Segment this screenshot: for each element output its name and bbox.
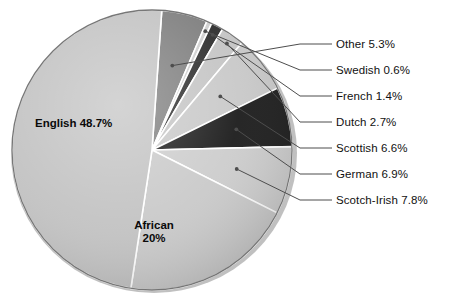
callout-label-scotch-irish: Scotch-Irish 7.8% xyxy=(336,194,428,206)
leader-dot-scotch-irish xyxy=(235,167,239,171)
leader-dot-other xyxy=(170,64,174,68)
slice-label-african-name: African xyxy=(117,219,191,232)
leader-dot-swedish xyxy=(203,29,207,33)
callout-label-scottish: Scottish 6.6% xyxy=(336,142,408,154)
callout-label-swedish: Swedish 0.6% xyxy=(336,64,410,76)
leader-dot-dutch xyxy=(225,42,229,46)
pie-chart-figure: Other 5.3% Swedish 0.6% French 1.4% Dutc… xyxy=(0,0,456,303)
leader-dot-scottish xyxy=(218,95,222,99)
leader-dot-french xyxy=(211,33,215,37)
callout-label-other: Other 5.3% xyxy=(336,38,395,50)
slice-label-african: African 20% xyxy=(117,219,191,245)
callout-label-dutch: Dutch 2.7% xyxy=(336,116,396,128)
slice-label-english: English 48.7% xyxy=(35,117,112,130)
callout-label-french: French 1.4% xyxy=(336,90,402,102)
callout-label-german: German 6.9% xyxy=(336,168,408,180)
slice-label-african-value: 20% xyxy=(117,232,191,245)
leader-dot-german xyxy=(234,127,238,131)
